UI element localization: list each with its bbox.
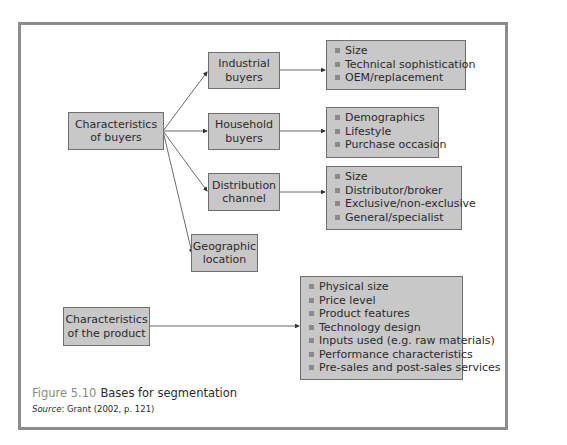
figure-source: Source: Grant (2002, p. 121) [32,404,154,414]
figure-number: Figure 5.10 [32,386,96,400]
node-label: Geographic location [189,240,260,267]
list-item: OEM/replacement [335,71,459,85]
list-item: Distributor/broker [335,184,455,198]
list-item: Performance characteristics [309,348,456,362]
list-item: Technical sophistication [335,58,459,72]
list-item: Exclusive/non-exclusive [335,197,455,211]
list-item: Purchase occasion [335,138,432,152]
source-text: : Grant (2002, p. 121) [61,404,154,414]
list-item: Physical size [309,280,456,294]
node-geographic-location: Geographic location [191,234,258,272]
list-product-attributes: Physical size Price level Product featur… [300,276,463,380]
square-bullet-icon [335,75,340,80]
square-bullet-icon [309,298,314,303]
node-label: Household buyers [209,118,279,145]
node-label: Distribution channel [209,179,279,206]
list-item: Product features [309,307,456,321]
square-bullet-icon [309,352,314,357]
list-item: Size [335,44,459,58]
node-label: Characteristics of the product [62,313,150,340]
list-item: Lifestyle [335,125,432,139]
list-distribution-attributes: Size Distributor/broker Exclusive/non-ex… [326,166,462,230]
list-item: General/specialist [335,211,455,225]
square-bullet-icon [335,201,340,206]
list-item: Technology design [309,321,456,335]
node-household-buyers: Household buyers [208,113,280,150]
node-distribution-channel: Distribution channel [208,173,280,211]
figure-title: Bases for segmentation [100,386,237,400]
square-bullet-icon [335,142,340,147]
square-bullet-icon [335,174,340,179]
node-label: Industrial buyers [209,57,279,84]
square-bullet-icon [309,311,314,316]
list-item: Demographics [335,111,432,125]
list-industrial-attributes: Size Technical sophistication OEM/replac… [326,40,466,90]
list-item: Pre-sales and post-sales services [309,361,456,375]
square-bullet-icon [309,284,314,289]
list-item: Price level [309,294,456,308]
node-label: Characteristics of buyers [69,118,163,145]
square-bullet-icon [335,129,340,134]
list-household-attributes: Demographics Lifestyle Purchase occasion [326,107,439,158]
figure-caption: Figure 5.10Bases for segmentation [32,386,237,400]
square-bullet-icon [335,48,340,53]
list-item: Size [335,170,455,184]
square-bullet-icon [335,115,340,120]
connector-arrows [0,0,567,445]
node-characteristics-of-the-product: Characteristics of the product [63,307,150,346]
square-bullet-icon [335,62,340,67]
square-bullet-icon [335,215,340,220]
square-bullet-icon [335,188,340,193]
node-industrial-buyers: Industrial buyers [208,52,280,89]
square-bullet-icon [309,338,314,343]
square-bullet-icon [309,325,314,330]
source-label: Source [32,404,61,414]
square-bullet-icon [309,365,314,370]
list-item: Inputs used (e.g. raw materials) [309,334,456,348]
node-characteristics-of-buyers: Characteristics of buyers [68,112,164,150]
